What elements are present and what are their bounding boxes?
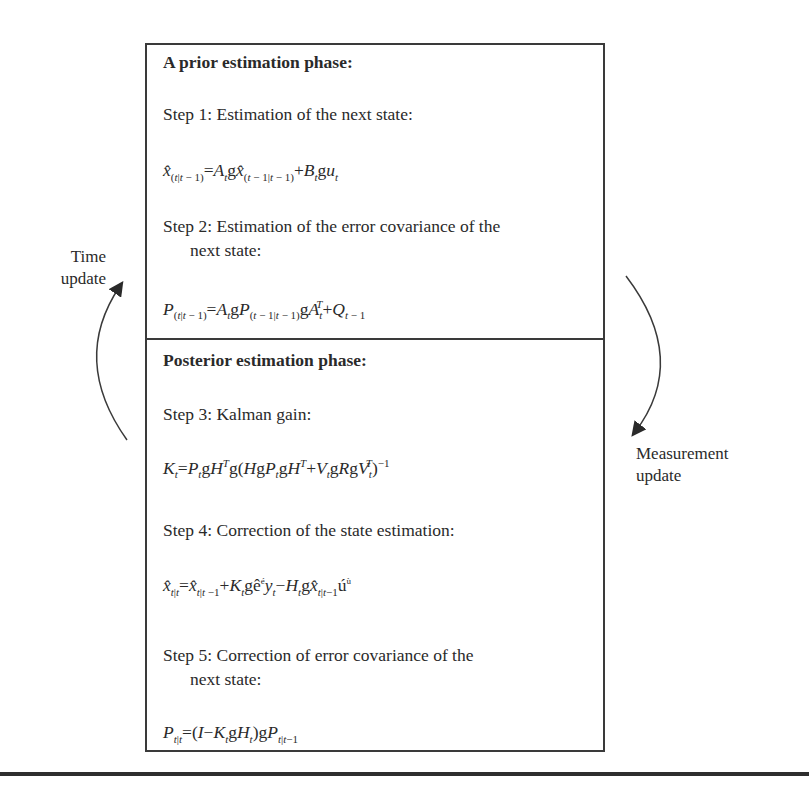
time-update-label: Time update — [60, 246, 106, 290]
cycle-arrows — [0, 0, 809, 792]
measurement-update-label-line2: update — [636, 465, 729, 487]
time-update-label-line2: update — [46, 268, 106, 290]
time-update-arrow-icon — [97, 286, 127, 440]
measurement-update-label: Measurement update — [636, 443, 729, 487]
bottom-rule — [0, 772, 809, 776]
measurement-update-label-line1: Measurement — [636, 443, 729, 465]
measurement-update-arrow-icon — [626, 276, 660, 432]
time-update-label-line1: Time — [60, 246, 106, 268]
